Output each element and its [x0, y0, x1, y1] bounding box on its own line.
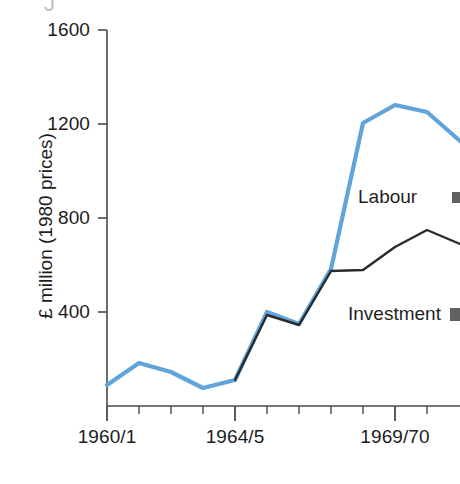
- x-tick-label-1969-70: 1969/70: [348, 426, 442, 448]
- chart-figure: J: [0, 0, 460, 484]
- series-line-labour: [107, 105, 460, 388]
- y-tick-label-800: 800: [16, 207, 90, 229]
- plot-area: [0, 0, 460, 484]
- y-tick-label-1200: 1200: [16, 113, 90, 135]
- series-label-investment: Investment: [348, 303, 441, 325]
- legend-swatch-labour: [452, 192, 460, 203]
- x-tick-marks-major: [107, 406, 395, 421]
- x-tick-label-1960-1: 1960/1: [67, 426, 147, 448]
- series-label-labour: Labour: [358, 186, 417, 208]
- y-tick-label-400: 400: [16, 301, 90, 323]
- x-tick-label-1964-5: 1964/5: [195, 426, 275, 448]
- x-tick-marks-minor: [139, 406, 427, 414]
- legend-swatch-investment: [450, 308, 460, 321]
- y-tick-marks: [98, 30, 107, 312]
- y-tick-label-1600: 1600: [16, 19, 90, 41]
